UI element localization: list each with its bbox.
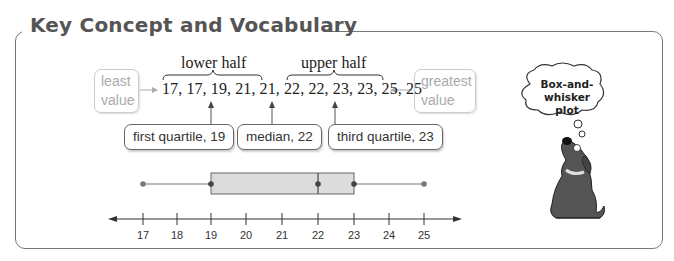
median-callout: median, 22 xyxy=(237,124,322,150)
q1-point xyxy=(208,181,214,187)
thought-text: Box-and- whisker plot xyxy=(532,78,602,117)
data-values: 17, 17, 19, 21, 21, 22, 22, 23, 23, 25, … xyxy=(162,80,422,98)
tick-label: 18 xyxy=(167,229,187,241)
thought-line2: whisker plot xyxy=(532,91,602,117)
thought-line1: Box-and- xyxy=(532,78,602,91)
tick-label: 21 xyxy=(272,229,292,241)
min-point xyxy=(140,181,146,187)
upper-half-label: upper half xyxy=(301,54,366,72)
q3-point xyxy=(351,181,357,187)
least-value-box: least value xyxy=(94,69,139,113)
median-arrow xyxy=(269,101,275,108)
q3-arrow xyxy=(332,101,338,108)
tick-label: 17 xyxy=(133,229,153,241)
q1-arrow xyxy=(208,101,214,108)
least-line2: value xyxy=(101,91,132,110)
first-quartile-callout: first quartile, 19 xyxy=(124,124,234,150)
least-line1: least xyxy=(101,72,132,91)
lower-half-label: lower half xyxy=(181,54,246,72)
median-point xyxy=(315,181,321,187)
third-quartile-callout: third quartile, 23 xyxy=(328,124,443,150)
max-point xyxy=(421,181,427,187)
tick-label: 22 xyxy=(308,229,328,241)
greatest-line2: value xyxy=(421,91,469,110)
tick-label: 24 xyxy=(379,229,399,241)
greatest-line1: greatest xyxy=(421,72,469,91)
tick-label: 19 xyxy=(201,229,221,241)
tick-label: 23 xyxy=(344,229,364,241)
dog-mascot xyxy=(551,137,605,218)
tick-label: 25 xyxy=(414,229,434,241)
greatest-value-box: greatest value xyxy=(414,69,476,113)
iqr-box xyxy=(211,173,354,194)
tick-label: 20 xyxy=(236,229,256,241)
